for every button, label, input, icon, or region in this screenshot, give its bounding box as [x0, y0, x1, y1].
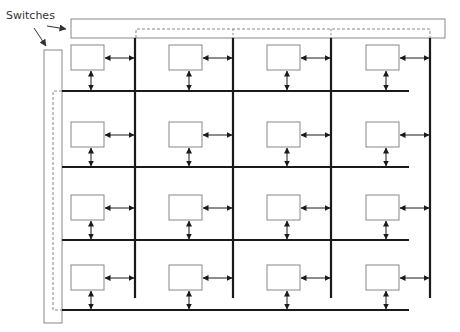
- processor-node-box: [366, 122, 399, 147]
- processor-node-box: [267, 122, 300, 147]
- label-pointer-arrow-icon: [34, 28, 46, 46]
- processor-node-box: [71, 122, 104, 147]
- processor-node-box: [366, 265, 399, 290]
- processor-node-box: [366, 195, 399, 220]
- mesh-network-diagram: [0, 0, 460, 332]
- processor-node-box: [267, 195, 300, 220]
- processor-node-box: [71, 195, 104, 220]
- label-pointer-arrow-icon: [47, 26, 66, 29]
- nodes-group: [71, 45, 429, 309]
- processor-node-box: [366, 45, 399, 70]
- processor-node-box: [169, 265, 202, 290]
- processor-node-box: [71, 265, 104, 290]
- processor-node-box: [169, 195, 202, 220]
- label-arrows-group: [34, 26, 66, 46]
- processor-node-box: [169, 45, 202, 70]
- processor-node-box: [267, 265, 300, 290]
- processor-node-box: [267, 45, 300, 70]
- processor-node-box: [71, 45, 104, 70]
- processor-node-box: [169, 122, 202, 147]
